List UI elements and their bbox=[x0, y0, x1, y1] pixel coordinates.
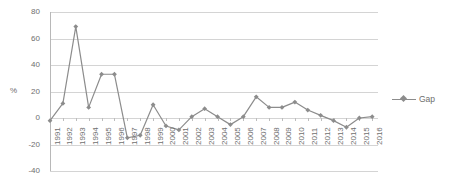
data-point-marker bbox=[86, 105, 91, 110]
legend-swatch-gap bbox=[392, 95, 416, 104]
x-axis-tick-label: 1994 bbox=[92, 127, 100, 145]
x-axis-tick-label: 2011 bbox=[311, 128, 319, 145]
y-axis-tick-label: 40 bbox=[14, 61, 40, 69]
x-axis-tick-label: 2003 bbox=[208, 127, 216, 145]
legend-diamond-marker-icon bbox=[400, 95, 407, 102]
gridline bbox=[50, 171, 378, 172]
x-axis-tick-label: 2010 bbox=[298, 127, 306, 145]
chart-container: % 806040200-20-40 1991199219931994199519… bbox=[0, 0, 450, 186]
x-axis-tick-label: 2004 bbox=[221, 127, 229, 145]
x-axis-tick-label: 1995 bbox=[105, 127, 113, 145]
x-axis-tick-label: 2014 bbox=[350, 127, 358, 145]
data-point-marker bbox=[318, 113, 323, 118]
y-axis-tick-label: 0 bbox=[14, 114, 40, 122]
data-point-marker bbox=[280, 105, 285, 110]
data-point-marker bbox=[331, 118, 336, 123]
x-axis-tick-label: 2013 bbox=[337, 127, 345, 145]
x-axis-tick-label: 1991 bbox=[54, 127, 62, 145]
x-axis-tick-label: 1999 bbox=[157, 127, 165, 145]
chart-legend: Gap bbox=[392, 94, 435, 104]
data-point-marker bbox=[370, 114, 375, 119]
data-point-marker bbox=[73, 24, 78, 29]
y-axis-tick-label: -20 bbox=[14, 141, 40, 149]
x-axis-tick-label: 2006 bbox=[247, 127, 255, 145]
x-axis-tick-label: 1996 bbox=[118, 127, 126, 145]
x-axis-tick-label: 2001 bbox=[182, 127, 190, 145]
x-axis-tick-label: 2009 bbox=[285, 127, 293, 145]
data-point-marker bbox=[112, 72, 117, 77]
x-axis-tick-label: 1992 bbox=[66, 127, 74, 145]
x-axis-tick-label: 2016 bbox=[376, 127, 384, 145]
y-axis-tick-label: 60 bbox=[14, 35, 40, 43]
x-axis-tick-label: 2000 bbox=[169, 127, 177, 145]
legend-label-gap: Gap bbox=[419, 94, 435, 104]
x-axis-tick-label: 1998 bbox=[144, 127, 152, 145]
data-point-marker bbox=[99, 72, 104, 77]
y-axis-tick-label: -40 bbox=[14, 167, 40, 175]
x-axis-tick-label: 2008 bbox=[273, 127, 281, 145]
y-axis-tick-label: 20 bbox=[14, 88, 40, 96]
series-line-gap bbox=[50, 27, 372, 138]
x-axis-tick-label: 1993 bbox=[79, 127, 87, 145]
series-gap-plot bbox=[50, 12, 378, 171]
x-axis-tick-label: 2002 bbox=[195, 127, 203, 145]
x-axis-tick-label: 2005 bbox=[234, 127, 242, 145]
x-axis-tick-label: 2012 bbox=[324, 127, 332, 145]
x-axis-tick-label: 2007 bbox=[260, 127, 268, 145]
plot-area bbox=[50, 12, 378, 171]
x-axis-tick-label: 1997 bbox=[131, 127, 139, 145]
y-axis-tick-label: 80 bbox=[14, 8, 40, 16]
x-axis-tick-label: 2015 bbox=[363, 127, 371, 145]
